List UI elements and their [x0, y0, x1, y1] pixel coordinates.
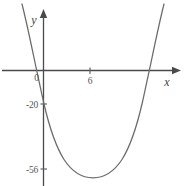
y-tick-label-minus-56: -56: [26, 165, 39, 175]
y-axis-arrow-icon: [40, 9, 47, 18]
x-axis-arrow-icon: [172, 67, 181, 74]
x-axis-label: x: [163, 75, 170, 89]
parabola-figure: 0 6 -20 -56 y x: [0, 0, 185, 186]
y-tick-label-minus-20: -20: [26, 100, 39, 110]
y-axis-label: y: [30, 13, 37, 27]
origin-label: 0: [34, 73, 39, 83]
parabola-plot: 0 6 -20 -56 y x: [0, 0, 185, 186]
x-tick-label-6: 6: [88, 76, 93, 86]
